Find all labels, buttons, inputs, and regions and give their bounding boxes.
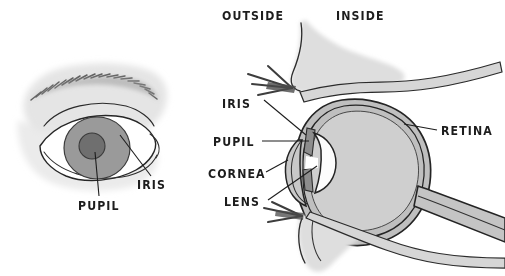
eye-anatomy-figure: OUTSIDE INSIDE IRIS PUPIL CORNEA LENS RE…	[0, 0, 505, 276]
label-outside: OUTSIDE	[222, 10, 284, 22]
label-external-iris: IRIS	[137, 179, 166, 191]
label-cross-section-retina: RETINA	[441, 125, 493, 137]
label-cross-section-lens: LENS	[224, 196, 260, 208]
label-cross-section-cornea: CORNEA	[208, 168, 266, 180]
external-pupil	[79, 133, 105, 159]
label-cross-section-pupil: PUPIL	[213, 136, 255, 148]
label-cross-section-iris: IRIS	[222, 98, 251, 110]
label-inside: INSIDE	[336, 10, 385, 22]
label-external-pupil: PUPIL	[78, 200, 120, 212]
